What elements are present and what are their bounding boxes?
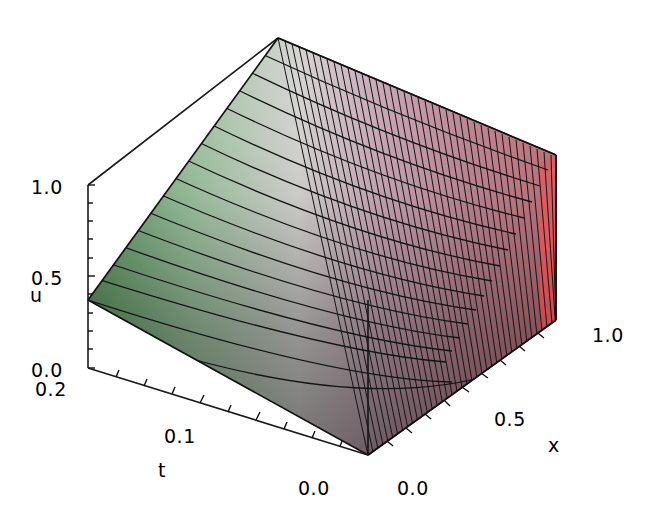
x-tick-0_5: 0.5 [494, 408, 526, 430]
surface-mesh [88, 38, 556, 455]
x-tick-1: 1.0 [592, 324, 624, 346]
t-tick-0_1: 0.1 [164, 425, 196, 447]
x-tick-0: 0.0 [397, 477, 429, 499]
u-tick-1: 1.0 [31, 176, 63, 198]
plot-canvas: 1.0 0.5 0.0 u 0.2 0.1 0.0 t 0.0 0.5 1.0 … [0, 0, 657, 531]
x-axis-title: x [548, 434, 559, 456]
u-axis-title: u [30, 284, 42, 306]
t-tick-0_2: 0.2 [35, 378, 67, 400]
surface-plot-figure: 1.0 0.5 0.0 u 0.2 0.1 0.0 t 0.0 0.5 1.0 … [0, 0, 657, 531]
t-tick-0: 0.0 [298, 477, 330, 499]
u-axis-ticks [88, 185, 95, 368]
t-axis-title: t [158, 459, 165, 481]
